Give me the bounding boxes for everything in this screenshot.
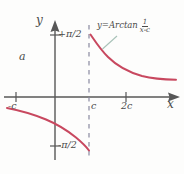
panel-label: a	[19, 51, 26, 62]
x-tick-label-c: c	[91, 101, 96, 111]
arctan-graph-figure: y x +π/2 -π/2 -c c 2c a y=Arctan 1 x-c	[0, 0, 184, 174]
x-axis-label: x	[167, 98, 174, 110]
curve-equation-fraction: 1 x-c	[139, 19, 151, 34]
curve-equation-label: y=Arctan 1 x-c	[97, 18, 151, 33]
y-tick-label-plus-pi-over-2: +π/2	[58, 29, 81, 39]
x-tick-label-2c: 2c	[121, 101, 132, 111]
graph-canvas	[0, 0, 184, 174]
curve-right-branch	[91, 35, 177, 80]
y-axis-label: y	[36, 14, 43, 26]
y-tick-label-minus-pi-over-2: -π/2	[58, 140, 77, 150]
x-tick-label-minus-c: -c	[8, 101, 17, 111]
curve-equation-lhs: y=Arctan	[97, 21, 138, 30]
formula-leader-line	[103, 36, 118, 49]
fraction-denominator: x-c	[139, 27, 151, 34]
